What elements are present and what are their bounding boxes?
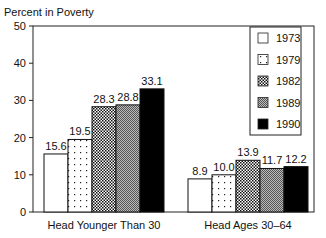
bar-value-label: 13.9 [237, 146, 258, 158]
y-tick-label: 50 [14, 20, 26, 32]
legend-swatch-1973 [258, 33, 268, 43]
legend-label: 1989 [276, 97, 300, 109]
bar-value-label: 33.1 [141, 75, 162, 87]
bar-value-label: 10.0 [213, 161, 234, 173]
legend-label: 1979 [276, 54, 300, 66]
bar-value-label: 15.6 [45, 140, 66, 152]
legend-swatch-1989 [258, 98, 268, 108]
category-label: Head Younger Than 30 [48, 219, 161, 231]
bar-1989 [116, 105, 140, 212]
y-tick-label: 20 [14, 132, 26, 144]
y-axis: 01020304050 [14, 20, 33, 218]
bar-1982 [92, 107, 116, 212]
y-tick-label: 0 [20, 206, 26, 218]
bar-value-label: 8.9 [192, 165, 207, 177]
bar-value-label: 28.8 [117, 91, 138, 103]
y-axis-label: Percent in Poverty [4, 6, 94, 18]
bar-1973 [188, 179, 212, 212]
bar-1990 [284, 167, 308, 212]
bar-1990 [140, 89, 164, 212]
poverty-bar-chart: Percent in Poverty 01020304050 15.619.52… [0, 0, 326, 238]
bar-1982 [236, 160, 260, 212]
legend: 19731979198219891990 [250, 27, 301, 135]
legend-swatch-1990 [258, 119, 268, 129]
bar-1989 [260, 168, 284, 212]
bar-value-label: 19.5 [69, 125, 90, 137]
y-tick-label: 40 [14, 57, 26, 69]
bar-value-label: 12.2 [285, 153, 306, 165]
y-tick-label: 30 [14, 94, 26, 106]
y-tick-label: 10 [14, 169, 26, 181]
legend-label: 1982 [276, 75, 300, 87]
legend-swatch-1979 [258, 55, 268, 65]
bar-1973 [44, 154, 68, 212]
legend-label: 1973 [276, 32, 300, 44]
bar-1979 [68, 139, 92, 212]
x-axis-labels: Head Younger Than 30Head Ages 30–64 [48, 219, 292, 231]
category-label: Head Ages 30–64 [204, 219, 291, 231]
legend-swatch-1982 [258, 76, 268, 86]
bar-value-label: 28.3 [93, 93, 114, 105]
bar-value-label: 11.7 [262, 154, 283, 166]
bar-1979 [212, 175, 236, 212]
legend-label: 1990 [276, 118, 300, 130]
